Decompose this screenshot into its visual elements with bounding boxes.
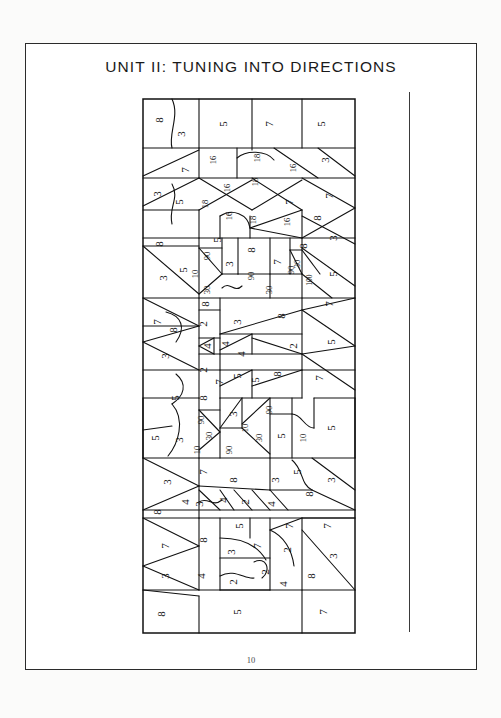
puzzle-cell-number: 3 xyxy=(327,553,339,559)
puzzle-cell-number: 8 xyxy=(303,491,315,497)
puzzle-cell-number: 3 xyxy=(327,235,339,241)
puzzle-cell-number: 8 xyxy=(297,243,309,249)
puzzle-cell-number: 4 xyxy=(179,499,191,505)
puzzle-cell-number: 16 xyxy=(282,218,292,227)
puzzle-cell-number: 3 xyxy=(231,319,243,325)
puzzle-cell-number: 5 xyxy=(325,339,337,345)
puzzle-cell-number: 4 xyxy=(217,497,229,503)
puzzle-cell-number: 7 xyxy=(317,609,329,615)
puzzle-cell-number: 10 xyxy=(240,424,250,433)
puzzle-cell-number: 3 xyxy=(325,477,337,483)
puzzle-cell-number: 5 xyxy=(211,237,223,243)
puzzle-cell-number: 3 xyxy=(161,479,173,485)
puzzle-cell-number: 7 xyxy=(151,319,163,325)
puzzle-cell-number: 7 xyxy=(323,301,335,307)
puzzle-cell-number: 3 xyxy=(223,261,235,267)
puzzle-cell-number: 4 xyxy=(201,343,213,349)
puzzle-cell-number: 5 xyxy=(177,267,189,273)
puzzle-cell-number: 8 xyxy=(197,537,209,543)
puzzle-cell-number: 2 xyxy=(259,569,271,575)
scanned-page: UNIT II: TUNING INTO DIRECTIONS xyxy=(0,0,501,718)
puzzle-cell-number: 8 xyxy=(227,477,239,483)
puzzle-cell-number: 7 xyxy=(323,193,335,199)
puzzle-cell-number: 8 xyxy=(151,509,163,515)
puzzle-cell-number: 2 xyxy=(281,547,293,553)
puzzle-cell-number: 10 xyxy=(192,446,202,455)
puzzle-cell-number: 3 xyxy=(173,437,185,443)
puzzle-cell-number: 8 xyxy=(167,327,179,333)
puzzle-cell-number: 3 xyxy=(319,157,331,163)
puzzle-cell-number: 3 xyxy=(193,501,205,507)
puzzle-cell-number: 8 xyxy=(199,301,211,307)
puzzle-cell-number: 90 xyxy=(286,266,296,275)
puzzle-cell-number: 18 xyxy=(250,178,260,187)
puzzle-cell-number: 3 xyxy=(157,275,169,281)
puzzle-cell-number: 7 xyxy=(197,469,209,475)
puzzle-cell-number: 18 xyxy=(252,154,262,163)
puzzle-cell-number: 90 xyxy=(264,406,274,415)
puzzle-cell-number: 3 xyxy=(159,573,171,579)
puzzle-cell-number: 4 xyxy=(195,573,207,579)
puzzle-cell-number: 18 xyxy=(248,216,258,225)
puzzle-cell-number: 4 xyxy=(219,341,231,347)
puzzle-cell-number: 5 xyxy=(291,469,303,475)
puzzle-cell-number: 7 xyxy=(263,121,275,127)
puzzle-cell-number: 7 xyxy=(283,523,295,529)
puzzle-cell-number: 8 xyxy=(155,611,167,617)
puzzle-cell-number: 30 xyxy=(204,432,214,441)
puzzle-cell-number: 5 xyxy=(249,377,261,383)
puzzle-cell-number: 2 xyxy=(239,499,251,505)
puzzle-cell-number: 7 xyxy=(271,259,283,265)
puzzle-cell-number: 7 xyxy=(283,199,295,205)
puzzle-cell-number: 7 xyxy=(251,543,263,549)
puzzle-figure: 8357516181637351816187716181683859088303… xyxy=(142,98,356,634)
puzzle-cell-number: 7 xyxy=(179,167,191,173)
puzzle-cell-number: 7 xyxy=(213,379,225,385)
puzzle-cell-number: 3 xyxy=(175,131,187,137)
puzzle-cell-number: 7 xyxy=(321,523,333,529)
puzzle-cell-number: 8 xyxy=(153,117,165,123)
puzzle-cell-number: 3 xyxy=(269,477,281,483)
puzzle-cell-number: 2 xyxy=(287,343,299,349)
puzzle-cell-number: 8 xyxy=(311,215,323,221)
puzzle-cell-number: 5 xyxy=(173,199,185,205)
puzzle-cell-number: 2 xyxy=(197,321,209,327)
puzzle-cell-number: 5 xyxy=(231,373,243,379)
puzzle-cell-number: 2 xyxy=(197,367,209,373)
puzzle-cell-number: 90 xyxy=(202,252,212,261)
puzzle-cell-number: 16 xyxy=(208,156,218,165)
puzzle-cell-number: 3 xyxy=(227,411,239,417)
puzzle-cell-number: 5 xyxy=(327,271,339,277)
puzzle-cell-number: 30 xyxy=(202,286,212,295)
puzzle-cell-number: 5 xyxy=(233,523,245,529)
puzzle-cell-number: 5 xyxy=(275,433,287,439)
puzzle-cell-number: 3 xyxy=(159,353,171,359)
puzzle-cell-number: 8 xyxy=(275,313,287,319)
puzzle-cell-number: 10 xyxy=(190,270,200,279)
puzzle-cell-number: 4 xyxy=(277,581,289,587)
puzzle-cell-number: 30 xyxy=(254,434,264,443)
puzzle-cell-number: 8 xyxy=(305,573,317,579)
puzzle-cell-number: 8 xyxy=(245,247,257,253)
puzzle-cell-number: 10 xyxy=(298,434,308,443)
puzzle-cell-number: 2 xyxy=(227,579,239,585)
puzzle-cell-number: 16 xyxy=(288,164,298,173)
puzzle-cell-number: 7 xyxy=(313,375,325,381)
puzzle-cell-number: 5 xyxy=(315,121,327,127)
puzzle-cell-number: 18 xyxy=(200,200,210,209)
puzzle-cell-number: 7 xyxy=(159,543,171,549)
vertical-rule xyxy=(409,92,410,632)
puzzle-cell-number: 8 xyxy=(271,371,283,377)
puzzle-cell-number: 5 xyxy=(149,435,161,441)
puzzle-cell-number: 4 xyxy=(265,501,277,507)
puzzle-cell-number: 8 xyxy=(197,395,209,401)
puzzle-cell-number: 5 xyxy=(169,395,181,401)
puzzle-cell-number: 16 xyxy=(222,184,232,193)
puzzle-cell-number: 90 xyxy=(246,272,256,281)
puzzle-cell-number: 5 xyxy=(231,609,243,615)
puzzle-cell-number: 3 xyxy=(151,191,163,197)
puzzle-cell-number: 30 xyxy=(264,286,274,295)
puzzle-cell-number: 100 xyxy=(305,274,314,286)
puzzle-cell-number: 5 xyxy=(325,425,337,431)
puzzle-cell-number: 4 xyxy=(235,351,247,357)
